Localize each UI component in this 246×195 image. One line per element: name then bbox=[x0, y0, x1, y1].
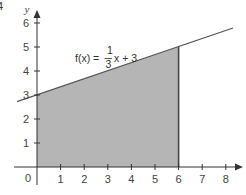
x-tick-label: 8 bbox=[223, 173, 229, 185]
origin-label: 0 bbox=[25, 172, 31, 184]
y-tick-label: 4 bbox=[23, 65, 29, 77]
x-tick-label: 5 bbox=[152, 173, 158, 185]
y-tick-label: 2 bbox=[23, 113, 29, 125]
chart-canvas: 1 2 3 4 5 6 7 8 0 1 2 3 4 5 6 y 4 f(x) =… bbox=[0, 0, 246, 195]
x-tick-label: 1 bbox=[58, 173, 64, 185]
x-tick-label: 6 bbox=[176, 173, 182, 185]
y-tick-label: 5 bbox=[23, 41, 29, 53]
function-label-denominator: 3 bbox=[106, 58, 112, 70]
x-tick-label: 3 bbox=[105, 173, 111, 185]
y-axis-label: y bbox=[24, 3, 30, 15]
function-label-numerator: 1 bbox=[107, 44, 113, 56]
x-tick-label: 7 bbox=[199, 173, 205, 185]
x-tick-label: 4 bbox=[128, 173, 134, 185]
y-axis-arrow-icon bbox=[34, 10, 41, 18]
y-tick-label: 6 bbox=[23, 17, 29, 29]
function-label-prefix: f(x) = bbox=[75, 52, 99, 64]
function-label-suffix: x + 3 bbox=[114, 52, 137, 64]
y-tick-label: 1 bbox=[23, 137, 29, 149]
x-tick-label: 2 bbox=[81, 173, 87, 185]
y-tick-label: 3 bbox=[23, 89, 29, 101]
figure-number: 4 bbox=[0, 0, 3, 12]
x-axis-arrow-icon bbox=[235, 164, 243, 171]
